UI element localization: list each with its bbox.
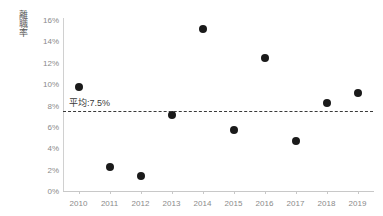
x-axis-tick-mark-2013 — [172, 191, 173, 194]
data-point-2011 — [106, 163, 114, 171]
data-point-2010 — [75, 83, 83, 91]
y-axis-tick-10pct: 10% — [37, 80, 59, 89]
y-axis-tick-labels: 0%2%4%6%8%10%12%14%16% — [33, 0, 59, 216]
data-point-2015 — [230, 126, 238, 134]
x-axis-tick-mark-2014 — [203, 191, 204, 194]
x-axis-tick-2014: 2014 — [194, 199, 212, 208]
x-axis-tick-2019: 2019 — [349, 199, 367, 208]
x-axis-tick-mark-2017 — [296, 191, 297, 194]
y-axis-title: 離職率 — [14, 10, 28, 37]
x-axis-tick-mark-2010 — [79, 191, 80, 194]
x-axis-tick-2012: 2012 — [132, 199, 150, 208]
data-point-2019 — [354, 89, 362, 97]
y-axis-tick-4pct: 4% — [37, 144, 59, 153]
x-axis-tick-mark-2018 — [327, 191, 328, 194]
turnover-rate-scatter-chart: 離職率 0%2%4%6%8%10%12%14%16% 2010201120122… — [0, 0, 383, 216]
x-axis-tick-2016: 2016 — [256, 199, 274, 208]
y-axis-tick-2pct: 2% — [37, 165, 59, 174]
x-axis-tick-2017: 2017 — [287, 199, 305, 208]
data-point-2014 — [199, 25, 207, 33]
x-axis-tick-mark-2011 — [110, 191, 111, 194]
x-axis-tick-labels: 2010201120122013201420152016201720182019 — [0, 191, 383, 216]
x-axis-tick-mark-2015 — [234, 191, 235, 194]
y-axis-tick-8pct: 8% — [37, 101, 59, 110]
x-axis-tick-2013: 2013 — [163, 199, 181, 208]
x-axis-tick-2018: 2018 — [318, 199, 336, 208]
y-axis-tick-6pct: 6% — [37, 122, 59, 131]
data-point-2016 — [261, 54, 269, 62]
x-axis-tick-mark-2016 — [265, 191, 266, 194]
data-point-2018 — [323, 99, 331, 107]
y-axis-tick-14pct: 14% — [37, 37, 59, 46]
average-reference-label: 平均:7.5% — [69, 96, 110, 109]
x-axis-tick-mark-2012 — [141, 191, 142, 194]
y-axis-tick-12pct: 12% — [37, 58, 59, 67]
data-point-2013 — [168, 111, 176, 119]
x-axis-tick-2015: 2015 — [225, 199, 243, 208]
x-axis-tick-2010: 2010 — [70, 199, 88, 208]
x-axis-tick-mark-2019 — [358, 191, 359, 194]
average-reference-line — [63, 111, 373, 112]
data-point-2017 — [292, 137, 300, 145]
x-axis-tick-2011: 2011 — [101, 199, 118, 208]
y-axis-tick-16pct: 16% — [37, 16, 59, 25]
data-point-2012 — [137, 172, 145, 180]
